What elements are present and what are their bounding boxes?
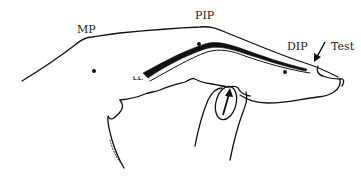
test-arrow-head [314, 53, 321, 62]
mp-joint-dot [92, 69, 96, 73]
push-arrow-shaft [223, 94, 229, 115]
finger-volar-outline [120, 78, 250, 100]
test-label: Test [331, 40, 355, 53]
palm-crease-outline [108, 100, 124, 168]
dip-joint-dot [283, 70, 287, 74]
examiner-finger-right [230, 92, 247, 160]
finger-diagram: MP PIP DIP Test L.L. [0, 0, 361, 178]
dip-label: DIP [287, 40, 308, 53]
pip-joint-dot [197, 42, 201, 46]
mp-label: MP [77, 23, 96, 36]
ll-label: L.L. [133, 75, 143, 81]
test-arrow-shaft [317, 42, 325, 57]
pip-label: PIP [195, 9, 215, 22]
push-arrow-head [225, 88, 233, 97]
oblique-retinacular-ligament [143, 43, 307, 78]
fingertip-pad [240, 79, 340, 103]
